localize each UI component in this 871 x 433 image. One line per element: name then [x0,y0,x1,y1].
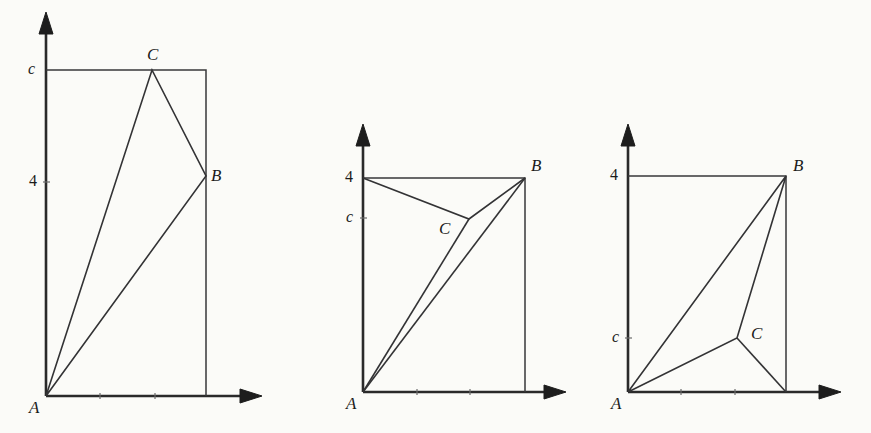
right-x-axis-arrow-head-icon [819,385,841,399]
middle-y-axis-arrow-head-icon [356,124,370,146]
geometry-drawing [0,0,871,433]
middle-point-label-B: B [531,157,541,174]
left-x-axis-arrow-head-icon [240,389,262,403]
right-point-label-B: B [793,157,803,174]
figure-canvas: c 4 A B C 4 c A B C 4 c A B C [0,0,871,433]
middle-y-tick-label-4: 4 [345,169,353,185]
right-y-axis-arrow-head-icon [621,124,635,146]
left-y-tick-label-4: 4 [29,173,37,189]
middle-point-label-A: A [346,395,356,412]
right-triangle-ABC [628,176,786,392]
left-y-tick-label-c: c [28,61,35,77]
right-figure-group [621,124,841,399]
middle-segment-A-to-C [363,219,469,392]
left-triangle-ACB [46,70,206,396]
left-point-label-C: C [147,46,158,63]
middle-y-tick-label-c: c [346,209,353,225]
left-point-label-A: A [29,399,39,416]
left-figure-group [39,12,262,403]
left-point-label-B: B [211,167,221,184]
left-rectangle [46,70,206,396]
middle-segment-top-to-C-to-B [363,178,525,219]
right-y-tick-label-c: c [612,329,619,345]
right-segment-C-to-corner [737,338,786,392]
middle-x-axis-arrow-head-icon [544,385,566,399]
left-y-axis-arrow-head-icon [39,12,53,34]
right-y-tick-label-4: 4 [610,167,618,183]
middle-point-label-C: C [439,220,450,237]
right-point-label-A: A [611,395,621,412]
right-point-label-C: C [751,325,762,342]
